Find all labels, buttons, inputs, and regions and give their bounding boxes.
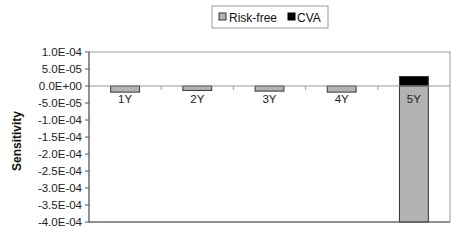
y-tick-label: -2.0E-04: [38, 148, 83, 160]
y-tick-label: -2.5E-04: [38, 165, 83, 177]
x-category-label: 2Y: [190, 93, 204, 105]
y-tick-label: -4.0E-04: [38, 216, 83, 228]
chart: Risk-free CVA Sensitivity 1.0E-045.0E-05…: [0, 0, 459, 237]
bar-risk-free-3y: [255, 86, 284, 91]
bar-cva-5y: [399, 76, 428, 86]
x-category-label: 4Y: [335, 93, 349, 105]
plot-area: [89, 52, 450, 222]
bar-risk-free-5y: [399, 86, 428, 222]
x-category-label: 3Y: [262, 93, 276, 105]
legend-swatch-cva: [288, 13, 295, 20]
y-tick-label: -1.0E-04: [38, 114, 83, 126]
bar-risk-free-1y: [111, 86, 140, 92]
y-tick-label: 1.0E-04: [42, 46, 83, 58]
legend-swatch-risk-free: [219, 13, 226, 20]
y-tick-label: -3.0E-04: [38, 182, 83, 194]
legend-label-cva: CVA: [297, 11, 321, 25]
legend-label-risk-free: Risk-free: [229, 11, 277, 25]
legend: Risk-free CVA: [212, 6, 328, 28]
bar-risk-free-4y: [327, 86, 356, 92]
y-tick-label: -1.5E-04: [38, 131, 83, 143]
y-axis-title: Sensitivity: [10, 111, 24, 171]
y-tick-label: 0.0E+00: [39, 80, 82, 92]
y-tick-label: -3.5E-04: [38, 199, 83, 211]
x-category-label: 5Y: [407, 93, 421, 105]
x-category-label: 1Y: [118, 93, 132, 105]
y-tick-label: 5.0E-05: [42, 63, 82, 75]
bar-risk-free-2y: [183, 86, 212, 90]
y-tick-label: -5.0E-05: [38, 97, 82, 109]
y-axis-ticks: 1.0E-045.0E-050.0E+00-5.0E-05-1.0E-04-1.…: [38, 46, 89, 228]
